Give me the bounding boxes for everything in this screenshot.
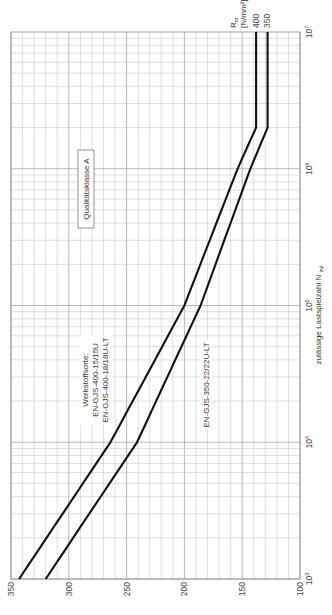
cycle-tick-label: 103: [304, 573, 314, 586]
series-label-400: 400: [251, 14, 261, 28]
quality-class-label: Qualitätsklasse A: [82, 158, 91, 220]
stress-tick-labels: 350300250200150100: [6, 582, 305, 596]
series-label-350: 350: [262, 14, 272, 28]
material-alt-label: EN-GJS-350-22/22U-LT: [202, 342, 211, 427]
stress-tick-label: 300: [64, 582, 74, 596]
y-axis-unit: [N/mm²]: [239, 0, 248, 28]
x-axis-title: zulässige Lastspielzahl N zul: [314, 265, 324, 364]
cycle-tick-label: 105: [304, 299, 314, 312]
stress-tick-label: 250: [122, 582, 132, 596]
material-heading: Werkstoffsorte:: [81, 353, 90, 407]
cycle-tick-label: 104: [304, 436, 314, 449]
sn-curve-chart: 350300250200150100 103104105106107 zuläs…: [0, 0, 332, 615]
cycle-tick-label: 106: [304, 162, 314, 175]
stress-tick-label: 150: [237, 582, 247, 596]
material-line-1: EN-GJS-400-15/15U: [91, 343, 100, 417]
stress-tick-label: 200: [179, 582, 189, 596]
cycle-tick-labels: 103104105106107: [304, 26, 314, 586]
material-line-2: EN-GJS-400-18/18U-LT: [101, 337, 110, 422]
y-axis-title: Rm: [229, 17, 239, 28]
stress-tick-label: 350: [6, 582, 16, 596]
cycle-tick-label: 107: [304, 26, 314, 39]
